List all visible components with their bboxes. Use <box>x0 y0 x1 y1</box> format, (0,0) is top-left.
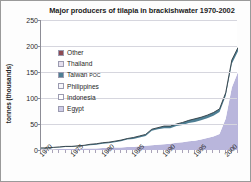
x-tick-mark <box>212 150 213 153</box>
legend-item: Taiwan POC <box>58 69 101 80</box>
gridline <box>41 124 237 125</box>
legend-label: Taiwan POC <box>67 71 101 78</box>
chart-title: Major producers of tilapia in brackishwa… <box>37 6 247 15</box>
legend-swatch <box>58 50 64 56</box>
x-axis: 1970197519801985199019952000 <box>40 150 237 182</box>
x-tick-mark <box>157 150 158 153</box>
y-tick-label: 150 <box>26 69 38 76</box>
x-tick-mark <box>58 150 59 153</box>
y-tick-mark <box>38 72 41 73</box>
y-axis-label-text: tonnes (thousands) <box>6 63 13 122</box>
legend-item: Egypt <box>58 103 101 114</box>
x-tick-mark <box>182 150 183 153</box>
y-tick-mark <box>38 46 41 47</box>
y-axis-label: tonnes (thousands) <box>3 47 15 139</box>
y-tick-label: 250 <box>26 17 38 24</box>
chart-container: Major producers of tilapia in brackishwa… <box>0 0 251 182</box>
legend-swatch <box>58 61 64 67</box>
chart-legend: OtherThailandTaiwan POCPhilippinesIndone… <box>58 47 101 114</box>
x-tick-mark <box>65 150 66 153</box>
legend-label: Indonesia <box>67 94 96 101</box>
x-tick-mark <box>188 150 189 153</box>
legend-label-suffix: POC <box>89 72 100 78</box>
x-tick-mark <box>89 150 90 153</box>
legend-swatch <box>58 72 64 78</box>
x-tick-mark <box>83 150 84 153</box>
legend-item: Thailand <box>58 58 101 69</box>
x-tick-mark <box>126 150 127 153</box>
legend-swatch <box>58 94 64 100</box>
gridline <box>41 20 237 21</box>
x-tick-mark <box>145 150 146 153</box>
y-tick-label: 200 <box>26 43 38 50</box>
legend-label: Other <box>67 49 84 56</box>
y-tick-label: 50 <box>30 121 38 128</box>
legend-item: Indonesia <box>58 92 101 103</box>
y-tick-mark <box>38 124 41 125</box>
y-tick-mark <box>38 98 41 99</box>
x-tick-mark <box>95 150 96 153</box>
x-tick-mark <box>237 150 238 153</box>
x-tick-mark <box>120 150 121 153</box>
legend-swatch <box>58 106 64 112</box>
y-tick-label: 100 <box>26 95 38 102</box>
x-tick-mark <box>175 150 176 153</box>
x-tick-mark <box>114 150 115 153</box>
legend-swatch <box>58 83 64 89</box>
legend-label: Philippines <box>67 83 99 90</box>
legend-label: Thailand <box>67 60 92 67</box>
x-tick-mark <box>219 150 220 153</box>
legend-item: Other <box>58 47 101 58</box>
x-tick-mark <box>52 150 53 153</box>
x-tick-mark <box>206 150 207 153</box>
legend-item: Philippines <box>58 81 101 92</box>
x-tick-mark <box>151 150 152 153</box>
legend-label: Egypt <box>67 105 84 112</box>
y-tick-mark <box>38 20 41 21</box>
